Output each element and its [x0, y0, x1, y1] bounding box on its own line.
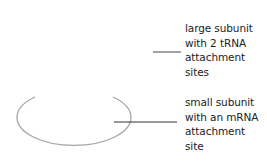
small-subunit-outline — [17, 97, 131, 145]
large-subunit-label: large subunit with 2 tRNA attachment sit… — [185, 21, 253, 79]
small-subunit-label: small subunit with an mRNA attachment si… — [185, 95, 258, 153]
